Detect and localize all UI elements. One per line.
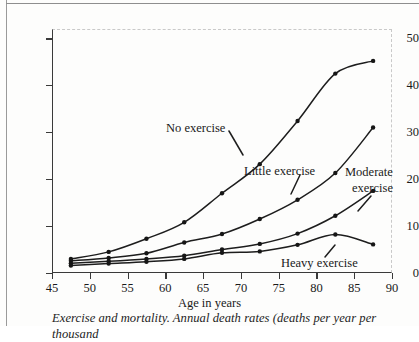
annotation-no-exercise: No exercise [166, 121, 225, 135]
figure-caption: Exercise and mortality. Annual death rat… [52, 311, 419, 342]
data-point [220, 191, 224, 195]
data-point [295, 198, 299, 202]
data-point [258, 217, 262, 221]
data-point [182, 257, 186, 261]
annotation-little-exercise: Little exercise [244, 164, 315, 178]
data-point [371, 125, 375, 129]
data-point [333, 171, 337, 175]
data-point [182, 240, 186, 244]
data-point [295, 243, 299, 247]
data-point [144, 237, 148, 241]
data-point [333, 71, 337, 75]
annotation-heavy-exercise: Heavy exercise [281, 256, 358, 270]
data-point [295, 119, 299, 123]
data-point [144, 260, 148, 264]
data-point [371, 242, 375, 246]
data-point [258, 242, 262, 246]
data-point [333, 214, 337, 218]
data-point [220, 232, 224, 236]
data-point [106, 261, 110, 265]
annotation-moderate-exercise-line1: Moderate [345, 165, 393, 179]
series-line [71, 61, 373, 259]
data-point [220, 251, 224, 255]
annotation-moderate-exercise-line2: exercise [352, 181, 393, 195]
data-point [106, 250, 110, 254]
data-point [258, 249, 262, 253]
data-point [69, 263, 73, 267]
data-point [144, 251, 148, 255]
leader-no-exercise [229, 131, 243, 155]
data-point [371, 59, 375, 63]
leader-moderate-exercise [358, 196, 371, 211]
data-point [333, 232, 337, 236]
series-no-exercise [69, 59, 376, 261]
data-point [182, 220, 186, 224]
data-point [295, 231, 299, 235]
